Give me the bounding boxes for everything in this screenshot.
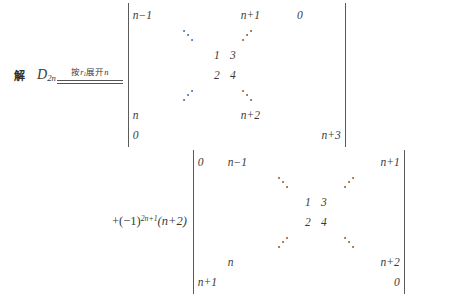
matrix-cell: n+2 <box>241 105 285 125</box>
matrix-cell: 0 <box>366 272 400 292</box>
matrix-cell-empty <box>332 272 366 292</box>
matrix-cell-empty <box>228 172 266 192</box>
determinant-right-bar <box>404 150 405 294</box>
matrix-cell-empty <box>225 25 241 45</box>
matrix-cell: 0 <box>133 125 167 145</box>
matrix-cell-empty <box>266 212 300 232</box>
matrix-cell-empty <box>225 85 241 105</box>
ellipsis-diagonal: ⋱ <box>266 172 300 192</box>
matrix-cell: 0 <box>198 152 228 172</box>
matrix-cell-empty <box>209 105 225 125</box>
matrix-cell-empty <box>209 85 225 105</box>
matrix-cell-empty <box>209 5 225 25</box>
matrix-cell-empty <box>332 152 366 172</box>
determinant-2-body: 0n−1n+1⋱⋰1324⋰⋱nn+2n+10 <box>194 150 404 294</box>
matrix-cell: n <box>228 252 266 272</box>
matrix-cell-empty <box>316 272 332 292</box>
matrix-cell: n−1 <box>228 152 266 172</box>
matrix-cell: 0 <box>285 5 315 25</box>
annotation-middle: 展开 <box>86 67 104 77</box>
matrix-cell: n+1 <box>366 152 400 172</box>
ellipsis-diagonal: ⋱ <box>167 25 209 45</box>
matrix-cell-empty <box>285 65 315 85</box>
matrix-cell-empty <box>133 85 167 105</box>
matrix-cell-empty <box>366 192 400 212</box>
annotated-equals: 按r1展开n <box>57 68 123 83</box>
expansion-coefficient: +(−1)2n+1(n+2) <box>112 214 187 229</box>
determinant-subscript: 2n <box>47 73 56 83</box>
matrix-cell: n+1 <box>241 5 285 25</box>
matrix-cell-empty <box>316 172 332 192</box>
matrix-cell: 3 <box>316 192 332 212</box>
matrix-cell-empty <box>316 152 332 172</box>
matrix-cell: n+3 <box>315 125 341 145</box>
matrix-cell-empty <box>241 125 285 145</box>
matrix-cell-empty <box>133 25 167 45</box>
ellipsis-diagonal: ⋰ <box>241 25 285 45</box>
annotation-suffix: n <box>104 67 108 77</box>
matrix-cell-empty <box>300 172 316 192</box>
determinant-name: D2n <box>37 67 56 83</box>
matrix-cell-empty <box>266 152 300 172</box>
matrix-cell-empty <box>167 65 209 85</box>
matrix-cell-empty <box>300 152 316 172</box>
matrix-cell: 2 <box>209 65 225 85</box>
solution-line-2: +(−1)2n+1(n+2) 0n−1n+1⋱⋰1324⋰⋱nn+2n+10 <box>0 148 405 296</box>
matrix-cell-empty <box>300 272 316 292</box>
matrix-cell-empty <box>198 172 228 192</box>
matrix-cell-empty <box>225 5 241 25</box>
matrix-cell-empty <box>366 232 400 252</box>
coefficient-exponent: 2n+1 <box>141 214 158 223</box>
matrix-cell-empty <box>266 252 300 272</box>
matrix-cell-empty <box>332 252 366 272</box>
matrix-cell-empty <box>241 65 285 85</box>
matrix-cell-empty <box>316 232 332 252</box>
matrix-cell-empty <box>228 232 266 252</box>
matrix-cell-empty <box>315 5 341 25</box>
matrix-cell-empty <box>198 252 228 272</box>
matrix-cell-empty <box>228 272 266 292</box>
matrix-cell-empty <box>225 105 241 125</box>
matrix-cell: 4 <box>316 212 332 232</box>
matrix-cell-empty <box>266 192 300 212</box>
matrix-cell-empty <box>315 65 341 85</box>
matrix-cell-empty <box>285 105 315 125</box>
determinant-1-body: n−1n+10⋱⋰1324⋰⋱nn+20n+3 <box>129 3 345 147</box>
matrix-cell-empty <box>133 45 167 65</box>
annotation-prefix: 按 <box>71 67 80 77</box>
matrix-cell-empty <box>300 232 316 252</box>
expansion-annotation: 按r1展开n <box>69 68 110 79</box>
matrix-cell: n−1 <box>133 5 167 25</box>
matrix-cell: 1 <box>300 192 316 212</box>
matrix-cell-empty <box>228 192 266 212</box>
matrix-cell-empty <box>315 85 341 105</box>
determinant-right-bar <box>345 3 346 147</box>
matrix-cell-empty <box>315 25 341 45</box>
solution-label: 解 <box>14 67 25 83</box>
matrix-cell-empty <box>167 5 209 25</box>
matrix-cell-empty <box>209 125 225 145</box>
matrix-cell-empty <box>167 105 209 125</box>
matrix-cell-empty <box>285 125 315 145</box>
ellipsis-diagonal: ⋱ <box>241 85 285 105</box>
matrix-cell-empty <box>332 212 366 232</box>
matrix-cell-empty <box>241 45 285 65</box>
determinant-matrix-2: 0n−1n+1⋱⋰1324⋰⋱nn+2n+10 <box>193 150 405 294</box>
determinant-symbol: D <box>37 67 47 82</box>
matrix-cell-empty <box>316 252 332 272</box>
matrix-cell-empty <box>209 25 225 45</box>
ellipsis-diagonal: ⋱ <box>332 232 366 252</box>
matrix-cell: 1 <box>209 45 225 65</box>
matrix-cell-empty <box>133 65 167 85</box>
matrix-cell: n+2 <box>366 252 400 272</box>
matrix-cell-empty <box>167 125 209 145</box>
solution-line-1: 解 D2n 按r1展开n n−1n+10⋱⋰1324⋰⋱nn+20n+3 <box>0 0 346 150</box>
matrix-cell: 3 <box>225 45 241 65</box>
ellipsis-diagonal: ⋰ <box>266 232 300 252</box>
matrix-cell: 4 <box>225 65 241 85</box>
matrix-cell: n+1 <box>198 272 228 292</box>
matrix-cell: 2 <box>300 212 316 232</box>
matrix-cell-empty <box>285 85 315 105</box>
matrix-cell-empty <box>366 212 400 232</box>
coefficient-factor: (n+2) <box>158 215 187 229</box>
